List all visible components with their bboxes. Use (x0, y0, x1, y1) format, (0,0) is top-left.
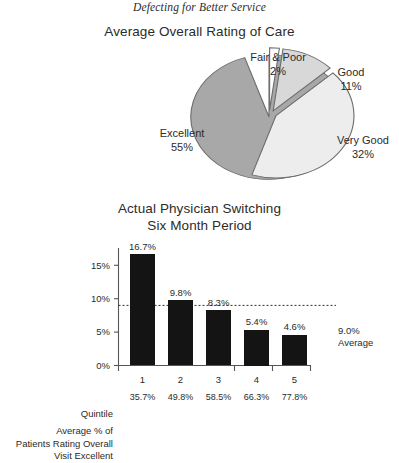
bar-value-label-1: 16.7% (118, 241, 167, 252)
bar-chart-title-line1: Actual Physician Switching (0, 200, 399, 217)
pie-label-good-name: Good (320, 66, 382, 80)
row-label-average-percent-line3: Visit Excellent (0, 450, 113, 463)
pie-label-good: Good 11% (320, 66, 382, 93)
pie-label-fair-poor-name: Fair & Poor (236, 51, 320, 65)
pie-chart-title: Average Overall Rating of Care (0, 24, 399, 39)
pie-label-very-good-value: 32% (327, 148, 399, 162)
pie-label-fair-poor: Fair & Poor 2% (236, 51, 320, 78)
average-annotation-word: Average (338, 337, 373, 349)
pie-label-excellent-name: Excellent (142, 127, 222, 141)
bar-value-label-5: 4.6% (270, 321, 319, 332)
secondary-value-5: 77.8% (270, 392, 319, 402)
pie-label-very-good-name: Very Good (327, 134, 399, 148)
y-tick-label-0: 0% (82, 360, 110, 371)
pie-label-very-good: Very Good 32% (327, 134, 399, 161)
pie-svg (0, 42, 399, 192)
row-label-average-percent-line1: Average % of (0, 425, 113, 438)
bar-chart-title: Actual Physician Switching Six Month Per… (0, 200, 399, 234)
row-label-quintile: Quintile (0, 408, 113, 421)
bar-value-label-3: 8.3% (194, 297, 243, 308)
average-annotation: 9.0% Average (338, 325, 373, 349)
bar-chart-figure: Actual Physician Switching Six Month Per… (0, 200, 399, 426)
pie-label-good-value: 11% (320, 80, 382, 94)
average-annotation-value: 9.0% (338, 325, 373, 337)
bar-chart-title-line2: Six Month Period (0, 217, 399, 234)
row-label-average-percent: Average % of Patients Rating Overall Vis… (0, 425, 113, 463)
pie-chart-graphic (0, 42, 399, 192)
y-tick-label-5: 5% (82, 326, 110, 337)
bar-quintile-3 (206, 310, 231, 365)
bar-quintile-5 (282, 335, 307, 366)
row-label-average-percent-line2: Patients Rating Overall (0, 438, 113, 451)
y-tick-label-10: 10% (82, 293, 110, 304)
y-tick-label-15: 15% (82, 260, 110, 271)
running-head: Defecting for Better Service (0, 1, 399, 13)
bar-quintile-4 (244, 330, 269, 366)
pie-label-fair-poor-value: 2% (236, 65, 320, 79)
pie-chart-figure: Average Overall Rating of Care Fair & Po… (0, 24, 399, 194)
x-tick-label-5: 5 (270, 374, 319, 385)
pie-label-excellent-value: 55% (142, 141, 222, 155)
bar-quintile-1 (130, 254, 155, 365)
bar-chart-plot: 15% 10% 5% 0% 16.7% 9.8% 8.3% 5.4% 4.6% … (0, 240, 399, 375)
pie-label-excellent: Excellent 55% (142, 127, 222, 154)
bar-quintile-2 (168, 300, 193, 365)
